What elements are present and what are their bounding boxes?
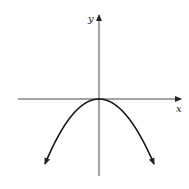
y-axis-label: y — [87, 13, 94, 24]
parabola-curve — [45, 99, 99, 164]
x-axis-label: x — [176, 103, 182, 114]
parabola-curve — [99, 99, 154, 164]
parabola-graph: y x — [0, 0, 189, 189]
